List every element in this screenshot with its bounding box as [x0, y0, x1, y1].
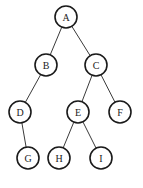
- node-label: H: [55, 153, 62, 164]
- node-label: A: [62, 12, 70, 23]
- binary-tree-diagram: ABCDEFGHI: [0, 0, 143, 188]
- tree-edges: [22, 26, 115, 148]
- edge-d-g: [22, 123, 26, 147]
- node-label: C: [93, 60, 100, 71]
- edge-a-c: [72, 26, 90, 55]
- edge-e-i: [83, 122, 96, 148]
- tree-node-a: A: [55, 6, 77, 28]
- node-label: B: [43, 60, 50, 71]
- edge-c-f: [101, 75, 115, 102]
- edge-e-h: [63, 122, 74, 148]
- edge-b-d: [25, 75, 40, 103]
- tree-node-d: D: [9, 101, 31, 123]
- tree-node-g: G: [17, 147, 39, 169]
- edge-a-b: [50, 27, 62, 55]
- edge-c-e: [82, 75, 92, 101]
- tree-node-e: E: [67, 101, 89, 123]
- node-label: F: [117, 107, 123, 118]
- node-label: G: [24, 153, 31, 164]
- tree-node-i: I: [90, 147, 112, 169]
- tree-node-c: C: [85, 54, 107, 76]
- node-label: E: [75, 107, 81, 118]
- tree-nodes: ABCDEFGHI: [9, 6, 131, 169]
- node-label: I: [99, 153, 102, 164]
- node-label: D: [16, 107, 23, 118]
- tree-node-b: B: [35, 54, 57, 76]
- tree-node-f: F: [109, 101, 131, 123]
- tree-node-h: H: [48, 147, 70, 169]
